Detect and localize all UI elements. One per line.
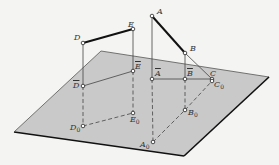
projection-diagram: ABCDEABDEA0B0C0D0E0	[0, 0, 279, 165]
label-Ebar: E	[135, 63, 141, 71]
label-text: B	[190, 44, 196, 53]
label-text: A	[155, 69, 161, 78]
label-text: D	[73, 81, 79, 90]
label-text: B	[187, 69, 193, 78]
point-B	[183, 51, 187, 55]
label-Bbar: B	[187, 70, 193, 78]
point-D	[81, 41, 85, 45]
label-subscript: 0	[76, 126, 80, 133]
label-Dbar: D	[73, 82, 79, 90]
segment-A-B	[152, 16, 185, 53]
point-A	[150, 14, 154, 18]
label-D0: D0	[70, 124, 80, 133]
label-D: D	[74, 34, 80, 42]
label-text: D	[74, 33, 80, 42]
label-E0: E0	[130, 116, 140, 125]
label-A: A	[157, 8, 163, 16]
segment-D-E	[83, 29, 133, 43]
label-text: C	[210, 69, 216, 78]
label-Abar: A	[155, 70, 161, 78]
label-E: E	[128, 21, 134, 29]
label-B: B	[190, 45, 196, 53]
label-C: C	[210, 70, 216, 78]
label-B0: B0	[188, 109, 198, 118]
label-C0: C0	[214, 81, 224, 90]
label-subscript: 0	[146, 143, 150, 150]
point-Dbar	[81, 84, 85, 88]
label-subscript: 0	[194, 111, 198, 118]
point-A0	[151, 140, 155, 144]
point-Abar	[150, 77, 154, 81]
point-D0	[81, 124, 85, 128]
point-B0	[183, 108, 187, 112]
label-subscript: 0	[220, 83, 224, 90]
label-text: A	[157, 7, 163, 16]
label-text: E	[128, 20, 134, 29]
label-text: E	[135, 62, 141, 71]
label-subscript: 0	[136, 118, 140, 125]
label-A0: A0	[140, 141, 150, 150]
